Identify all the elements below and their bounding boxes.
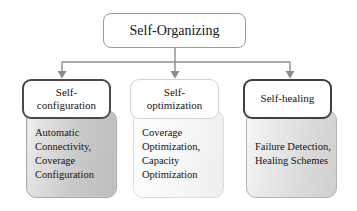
branch-header-self-optimization: Self-optimization bbox=[130, 79, 219, 119]
branch-body-text-self-healing: Failure Detection, Healing Schemes bbox=[255, 140, 333, 168]
branch-body-text-self-configuration: Automatic Connectivity, Coverage Configu… bbox=[35, 126, 113, 181]
branch-header-label-self-configuration: Self-configuration bbox=[37, 86, 96, 112]
branch-header-self-configuration: Self-configuration bbox=[22, 79, 111, 119]
self-organizing-network-diagram: Self-Organizing Automatic Connectivity, … bbox=[0, 0, 357, 211]
branch-header-label-self-healing: Self-healing bbox=[261, 92, 315, 105]
branch-body-self-healing: Failure Detection, Healing Schemes bbox=[246, 110, 337, 198]
arrowhead-right bbox=[286, 71, 295, 79]
root-node-self-organizing: Self-Organizing bbox=[103, 13, 246, 48]
branch-body-text-self-optimization: Coverage Optimization, Capacity Optimiza… bbox=[142, 126, 220, 181]
branch-header-label-self-optimization: Self-optimization bbox=[147, 86, 203, 112]
branch-body-self-optimization: Coverage Optimization, Capacity Optimiza… bbox=[133, 110, 224, 198]
arrowhead-middle bbox=[171, 71, 180, 79]
branch-body-self-configuration: Automatic Connectivity, Coverage Configu… bbox=[26, 110, 117, 198]
root-node-label: Self-Organizing bbox=[130, 23, 220, 39]
branch-header-self-healing: Self-healing bbox=[243, 79, 332, 119]
arrowhead-left bbox=[58, 71, 67, 79]
